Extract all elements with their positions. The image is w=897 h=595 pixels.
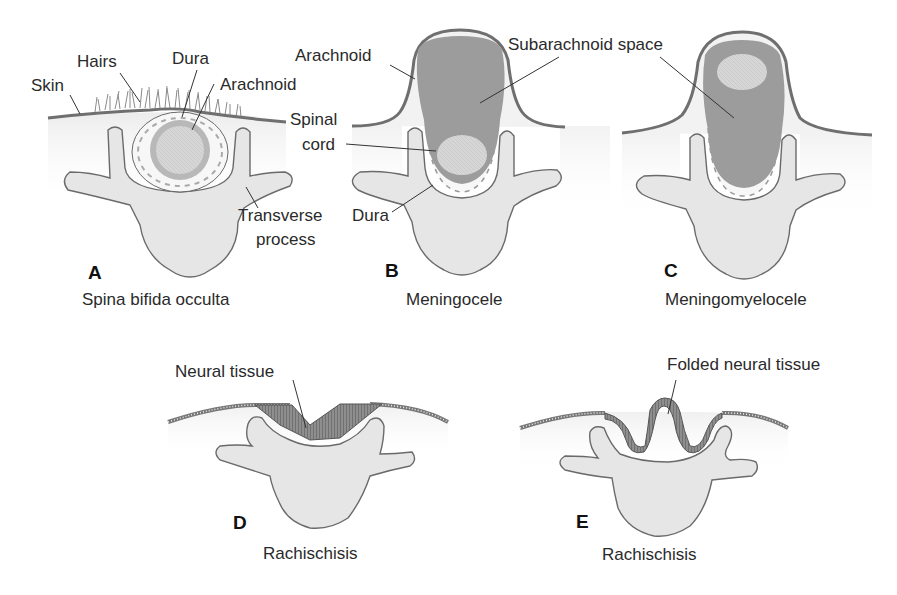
label-spinal: Spinal [290, 110, 337, 129]
label-dura-a: Dura [172, 49, 209, 68]
spinal-cord-b [437, 135, 487, 175]
label-dura-b: Dura [352, 206, 389, 225]
label-transverse: Transverse [238, 206, 322, 225]
label-folded-neural-tissue: Folded neural tissue [667, 355, 820, 374]
label-arachnoid-a: Arachnoid [220, 75, 297, 94]
panel-b-drawing [352, 30, 610, 275]
panel-letter-a: A [88, 262, 102, 284]
panel-letter-e: E [576, 511, 589, 533]
label-hairs: Hairs [77, 52, 117, 71]
spina-bifida-figure: Skin Hairs Dura Arachnoid Transverse pro… [0, 0, 897, 595]
panel-c-drawing [622, 32, 872, 279]
label-neural-tissue: Neural tissue [175, 362, 274, 381]
label-arachnoid-b: Arachnoid [295, 46, 372, 65]
panel-d-drawing [168, 404, 448, 528]
caption-b: Meningocele [406, 290, 502, 310]
caption-c: Meningomyelocele [665, 290, 807, 310]
panel-letter-b: B [385, 260, 399, 282]
label-process: process [256, 230, 316, 249]
label-subarachnoid-space: Subarachnoid space [508, 35, 663, 54]
caption-a: Spina bifida occulta [82, 290, 229, 310]
panel-letter-d: D [233, 512, 247, 534]
label-skin: Skin [31, 76, 64, 95]
panel-letter-c: C [664, 260, 678, 282]
spinal-cord-c [717, 54, 767, 90]
caption-d: Rachischisis [263, 544, 357, 564]
spinal-cord-a [156, 126, 204, 174]
caption-e: Rachischisis [602, 545, 696, 565]
panel-e-drawing [520, 398, 788, 536]
label-cord: cord [302, 135, 335, 154]
